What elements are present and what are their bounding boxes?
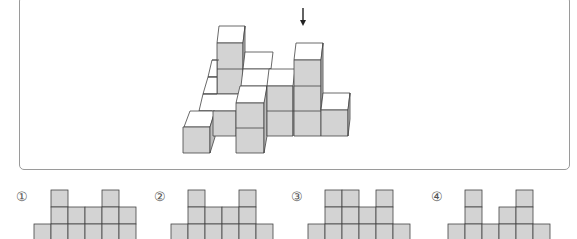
isometric-cube-stack — [183, 26, 350, 153]
grid-cell — [171, 224, 188, 239]
grid-cell — [516, 190, 533, 207]
grid-cell — [34, 224, 51, 239]
option-1-front-view[interactable] — [34, 190, 136, 239]
grid-cell — [188, 190, 205, 207]
cube-face-top — [217, 26, 245, 43]
view-direction-arrow-icon — [300, 8, 306, 26]
grid-cell — [533, 224, 550, 239]
grid-cell — [516, 224, 533, 239]
grid-cell — [68, 224, 85, 239]
grid-cell — [393, 224, 410, 239]
option-3-label[interactable]: ③ — [291, 190, 303, 204]
cube-face-top — [321, 93, 350, 110]
cube-face-top — [203, 77, 217, 94]
grid-cell — [102, 207, 119, 224]
cube-face-top — [294, 43, 323, 60]
grid-cell — [325, 207, 342, 224]
cube-face-front — [183, 127, 210, 153]
option-1-label[interactable]: ① — [16, 190, 28, 204]
grid-cell — [499, 207, 516, 224]
grid-cell — [51, 224, 68, 239]
cube-face-top — [241, 69, 271, 86]
grid-cell — [205, 224, 222, 239]
grid-cell — [256, 224, 273, 239]
grid-cell — [51, 190, 68, 207]
grid-cell — [205, 207, 222, 224]
grid-cell — [516, 207, 533, 224]
option-2-label[interactable]: ② — [154, 190, 166, 204]
grid-cell — [102, 190, 119, 207]
option-4-front-view[interactable] — [448, 190, 550, 239]
grid-cell — [465, 190, 482, 207]
grid-cell — [465, 224, 482, 239]
grid-cell — [222, 207, 239, 224]
grid-cell — [359, 207, 376, 224]
grid-cell — [68, 207, 85, 224]
grid-cell — [85, 224, 102, 239]
grid-cell — [239, 190, 256, 207]
cube-face-front — [321, 110, 348, 136]
grid-cell — [222, 224, 239, 239]
grid-cell — [325, 190, 342, 207]
grid-cell — [499, 224, 516, 239]
grid-cell — [188, 224, 205, 239]
grid-cell — [51, 207, 68, 224]
grid-cell — [325, 224, 342, 239]
option-4-label[interactable]: ④ — [431, 190, 443, 204]
grid-cell — [342, 224, 359, 239]
cube-face-top — [208, 60, 217, 77]
grid-cell — [342, 207, 359, 224]
figure-canvas — [0, 0, 577, 239]
grid-cell — [102, 224, 119, 239]
grid-cell — [239, 224, 256, 239]
grid-cell — [376, 190, 393, 207]
grid-cell — [239, 207, 256, 224]
grid-cell — [482, 224, 499, 239]
option-2-front-view[interactable] — [171, 190, 273, 239]
grid-cell — [342, 190, 359, 207]
cube-face-top — [236, 86, 267, 103]
cube-face-front — [213, 111, 236, 136]
grid-cell — [376, 224, 393, 239]
grid-cell — [376, 207, 393, 224]
cube-face-front — [294, 60, 321, 136]
grid-cell — [359, 224, 376, 239]
grid-cell — [308, 224, 325, 239]
grid-cell — [188, 207, 205, 224]
option-3-front-view[interactable] — [308, 190, 410, 239]
grid-cell — [85, 207, 102, 224]
grid-cell — [119, 224, 136, 239]
cube-face-top — [243, 52, 273, 69]
grid-cell — [448, 224, 465, 239]
cube-face-top — [267, 69, 295, 86]
grid-cell — [465, 207, 482, 224]
cube-face-front — [217, 43, 243, 94]
arrow-head — [300, 20, 306, 26]
grid-cell — [119, 207, 136, 224]
